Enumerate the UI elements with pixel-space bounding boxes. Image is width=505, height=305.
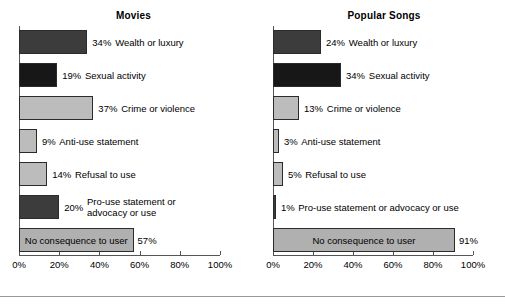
bar-value-label: 19% bbox=[62, 70, 81, 81]
bar bbox=[273, 195, 276, 219]
bar-value-label: 1% bbox=[281, 202, 295, 213]
footer-divider-rule bbox=[0, 296, 505, 297]
two-panel-bar-chart-figure: Movies 0%20%40%60%80%100%34%Wealth or lu… bbox=[0, 0, 505, 305]
bar-row: 9%Anti-use statement bbox=[0, 129, 253, 153]
x-axis-tick-label: 100% bbox=[453, 259, 493, 270]
plot-area-movies: 0%20%40%60%80%100%34%Wealth or luxury19%… bbox=[0, 0, 253, 292]
bar-category-label: Pro-use statement oradvocacy or use bbox=[87, 196, 176, 218]
x-axis-line bbox=[273, 255, 473, 256]
bar-value-label: 9% bbox=[42, 136, 56, 147]
x-axis-tick-label: 20% bbox=[39, 259, 79, 270]
bar-value-label: 3% bbox=[284, 136, 298, 147]
bar-row: 1%Pro-use statement or advocacy or use bbox=[253, 195, 505, 219]
bar-category-label: Crime or violence bbox=[327, 103, 401, 114]
bar bbox=[273, 96, 299, 120]
bar-value-label: 37% bbox=[98, 103, 117, 114]
bar-row: No consequence to user91% bbox=[253, 228, 505, 252]
bar-inside-label: No consequence to user bbox=[273, 235, 455, 246]
bar-value-label: 5% bbox=[288, 169, 302, 180]
chart-panel-popular-songs: Popular Songs 0%20%40%60%80%100%24%Wealt… bbox=[253, 0, 505, 292]
x-axis-tick-label: 80% bbox=[413, 259, 453, 270]
bar-category-label: Wealth or luxury bbox=[115, 37, 183, 48]
bar-category-label: Refusal to use bbox=[75, 169, 136, 180]
bar-row: 24%Wealth or luxury bbox=[253, 30, 505, 54]
bar-row: 20%Pro-use statement oradvocacy or use bbox=[0, 195, 253, 219]
bar-row: 14%Refusal to use bbox=[0, 162, 253, 186]
bar-row: 37%Crime or violence bbox=[0, 96, 253, 120]
bar-value-label: 14% bbox=[52, 169, 71, 180]
x-axis-tick-label: 40% bbox=[333, 259, 373, 270]
bar bbox=[273, 129, 279, 153]
x-axis-tick-label: 100% bbox=[200, 259, 240, 270]
x-axis-tick-label: 0% bbox=[0, 259, 39, 270]
bar-row: 34%Wealth or luxury bbox=[0, 30, 253, 54]
bar-category-label: Refusal to use bbox=[305, 169, 366, 180]
bar bbox=[19, 162, 47, 186]
bar-category-label: Crime or violence bbox=[121, 103, 195, 114]
bar-value-label: 20% bbox=[64, 202, 83, 213]
bar bbox=[19, 195, 59, 219]
bar-value-label: 13% bbox=[304, 103, 323, 114]
bar bbox=[19, 96, 93, 120]
bar-category-label: Pro-use statement or advocacy or use bbox=[298, 202, 459, 213]
x-axis-tick-label: 80% bbox=[160, 259, 200, 270]
bar-row: 34%Sexual activity bbox=[253, 63, 505, 87]
bar-value-label: 34% bbox=[92, 37, 111, 48]
bar-category-label: Wealth or luxury bbox=[349, 37, 417, 48]
bar-row: 5%Refusal to use bbox=[253, 162, 505, 186]
bar-value-label: 57% bbox=[138, 235, 157, 246]
x-axis-tick-label: 60% bbox=[373, 259, 413, 270]
x-axis-tick-label: 0% bbox=[253, 259, 293, 270]
bar-category-label: Sexual activity bbox=[369, 70, 430, 81]
bar bbox=[273, 162, 283, 186]
bar-category-label: Anti-use statement bbox=[59, 136, 138, 147]
bar bbox=[19, 129, 37, 153]
bar-inside-label: No consequence to user bbox=[19, 235, 134, 246]
bar-row: 13%Crime or violence bbox=[253, 96, 505, 120]
bar bbox=[19, 63, 57, 87]
bar bbox=[273, 63, 341, 87]
bar-value-label: 91% bbox=[459, 235, 478, 246]
x-axis-tick-label: 20% bbox=[293, 259, 333, 270]
bar-value-label: 34% bbox=[346, 70, 365, 81]
bar-row: 3%Anti-use statement bbox=[253, 129, 505, 153]
bar-category-label: Sexual activity bbox=[85, 70, 146, 81]
chart-panel-movies: Movies 0%20%40%60%80%100%34%Wealth or lu… bbox=[0, 0, 253, 292]
bar bbox=[273, 30, 321, 54]
bar bbox=[19, 30, 87, 54]
bar-category-label: Anti-use statement bbox=[301, 136, 380, 147]
bar-row: 19%Sexual activity bbox=[0, 63, 253, 87]
bar-row: No consequence to user57% bbox=[0, 228, 253, 252]
plot-area-popular-songs: 0%20%40%60%80%100%24%Wealth or luxury34%… bbox=[253, 0, 505, 292]
x-axis-line bbox=[19, 255, 220, 256]
x-axis-tick-label: 40% bbox=[79, 259, 119, 270]
x-axis-tick-label: 60% bbox=[120, 259, 160, 270]
bar-value-label: 24% bbox=[326, 37, 345, 48]
